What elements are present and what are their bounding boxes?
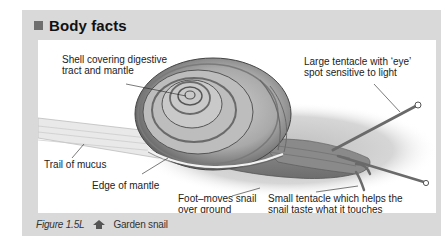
body-facts-panel: Body facts xyxy=(22,10,441,236)
label-foot: Foot–moves snail over ground xyxy=(178,193,256,213)
header-bullet-icon xyxy=(34,21,43,30)
label-large-tentacle: Large tentacle with ‘eye’ spot sensitive… xyxy=(304,56,411,78)
label-mantle-edge-line1: Edge of mantle xyxy=(92,180,159,191)
panel-header: Body facts xyxy=(34,14,127,36)
label-small-tentacle-line1: Small tentacle which helps the xyxy=(268,193,403,204)
label-trail-line1: Trail of mucus xyxy=(44,159,106,170)
label-trail: Trail of mucus xyxy=(44,159,106,170)
label-foot-line2: over ground xyxy=(178,204,256,213)
figure-number: Figure 1.5L xyxy=(36,219,84,230)
house-arrow-icon xyxy=(93,220,105,229)
label-shell-line2: tract and mantle xyxy=(62,65,167,76)
label-mantle-edge: Edge of mantle xyxy=(92,180,159,191)
label-large-tentacle-line1: Large tentacle with ‘eye’ xyxy=(304,56,411,67)
panel-title: Body facts xyxy=(49,17,127,34)
snail-figure: Shell covering digestive tract and mantl… xyxy=(38,40,436,213)
label-large-tentacle-line2: spot sensitive to light xyxy=(304,67,411,78)
label-foot-line1: Foot–moves snail xyxy=(178,193,256,204)
label-small-tentacle: Small tentacle which helps the snail tas… xyxy=(268,193,403,213)
caption-text: Garden snail xyxy=(113,219,167,230)
label-shell-line1: Shell covering digestive xyxy=(62,54,167,65)
figure-caption: Figure 1.5L Garden snail xyxy=(36,215,168,233)
label-shell: Shell covering digestive tract and mantl… xyxy=(62,54,167,76)
label-small-tentacle-line2: snail taste what it touches xyxy=(268,204,403,213)
